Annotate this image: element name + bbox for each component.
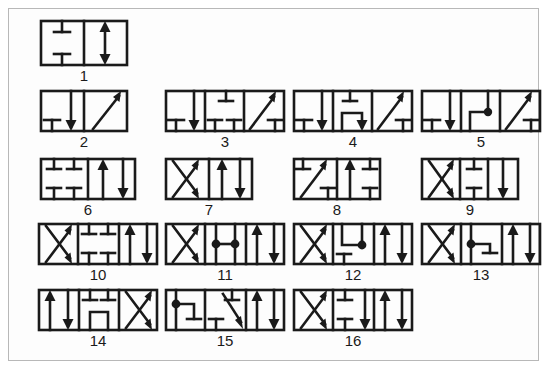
valve-symbol-5: 5 <box>420 89 542 149</box>
valve-symbol-6: 6 <box>39 157 137 217</box>
valve-symbol-8-label: 8 <box>292 202 382 217</box>
valve-symbol-7: 7 <box>164 157 254 217</box>
valve-symbol-12-label: 12 <box>292 267 414 282</box>
valve-symbol-9: 9 <box>420 157 520 217</box>
valve-symbol-1: 1 <box>39 19 129 83</box>
valve-symbol-3-label: 3 <box>164 134 286 149</box>
valve-symbol-1-graphic <box>39 19 129 67</box>
valve-symbol-1-label: 1 <box>39 68 129 83</box>
valve-symbol-6-graphic <box>39 157 137 201</box>
valve-symbol-5-label: 5 <box>420 134 542 149</box>
valve-symbol-14-graphic <box>37 288 159 332</box>
valve-symbol-4-label: 4 <box>292 134 414 149</box>
valve-symbol-10: 10 <box>37 222 159 282</box>
valve-symbol-2-graphic <box>39 89 129 133</box>
valve-symbol-10-label: 10 <box>37 267 159 282</box>
valve-symbol-13: 13 <box>420 222 542 282</box>
valve-symbol-7-graphic <box>164 157 254 201</box>
valve-symbol-4: 4 <box>292 89 414 149</box>
valve-symbol-2-label: 2 <box>39 134 129 149</box>
valve-symbol-16: 16 <box>292 288 414 348</box>
valve-symbol-16-graphic <box>292 288 414 332</box>
valve-symbol-12: 12 <box>292 222 414 282</box>
valve-symbol-4-graphic <box>292 89 414 133</box>
valve-symbol-13-graphic <box>420 222 542 266</box>
valve-symbol-14: 14 <box>37 288 159 348</box>
figure-frame: 1 2 <box>8 8 539 361</box>
valve-symbol-8-graphic <box>292 157 382 201</box>
valve-symbol-6-label: 6 <box>39 202 137 217</box>
valve-symbol-14-label: 14 <box>37 333 159 348</box>
valve-symbol-8: 8 <box>292 157 382 217</box>
valve-symbol-9-label: 9 <box>420 202 520 217</box>
valve-symbol-11: 11 <box>164 222 286 282</box>
valve-symbol-9-graphic <box>420 157 520 201</box>
valve-symbol-2: 2 <box>39 89 129 149</box>
valve-symbol-12-graphic <box>292 222 414 266</box>
valve-symbol-15: 15 <box>164 288 286 348</box>
valve-symbol-15-label: 15 <box>164 333 286 348</box>
valve-symbol-15-graphic <box>164 288 286 332</box>
valve-symbol-13-label: 13 <box>420 267 542 282</box>
valve-symbol-5-graphic <box>420 89 542 133</box>
valve-symbol-3-graphic <box>164 89 286 133</box>
valve-symbol-10-graphic <box>37 222 159 266</box>
valve-symbol-3: 3 <box>164 89 286 149</box>
valve-symbol-11-label: 11 <box>164 267 286 282</box>
valve-symbol-16-label: 16 <box>292 333 414 348</box>
valve-symbol-7-label: 7 <box>164 202 254 217</box>
valve-symbol-11-graphic <box>164 222 286 266</box>
